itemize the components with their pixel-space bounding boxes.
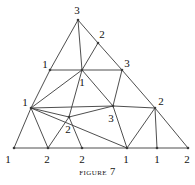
graph-edge [31,70,50,108]
graph-edge [78,20,82,70]
graph-edge [113,70,122,106]
vertex-label: 1 [42,59,48,70]
graph-vertex [112,105,115,108]
figure-caption: Figure7 [0,166,195,177]
graph-edge [82,70,113,106]
vertex-label: 2 [184,154,190,165]
vertex-label: 2 [79,154,85,165]
graph-vertex [47,147,50,150]
graph-vertex [121,69,124,72]
graph-vertex [30,107,33,110]
graph-edge [122,70,155,108]
graph-vertex [154,107,157,110]
vertex-label: 1 [123,154,129,165]
graph-edge [82,43,98,70]
vertex-label: 1 [22,97,28,108]
graph-edge [155,108,188,148]
graph-edge [127,108,155,148]
figure-caption-word: Figure [79,166,107,177]
graph-edge [50,20,78,70]
graph-vertex [97,42,100,45]
graph-edge [31,70,82,108]
vertex-label: 2 [99,29,105,40]
graph-vertex [126,147,129,150]
vertex-label: 3 [108,113,114,124]
graph-vertex [77,19,80,22]
vertex-label: 3 [74,5,80,16]
graph-edge [113,106,127,148]
figure-7-container: 321131322122112 Figure7 [0,0,195,185]
graph-edge [98,43,122,70]
vertex-label: 1 [79,77,85,88]
vertex-label: 2 [44,154,50,165]
graph-vertex [81,147,84,150]
graph-vertex [81,69,84,72]
graph-vertex [156,147,159,150]
graph-edge [69,106,113,117]
vertex-label: 1 [154,154,160,165]
vertex-label: 3 [124,58,130,69]
vertex-label: 2 [65,124,71,135]
graph-edge [78,20,98,43]
graph-edge [14,108,31,148]
triangulation-diagram [0,0,195,185]
graph-vertex [49,69,52,72]
vertex-label: 1 [5,154,11,165]
graph-vertex [68,116,71,119]
graph-vertex [187,147,190,150]
figure-caption-number: 7 [110,166,116,177]
vertex-label: 2 [158,96,164,107]
graph-edge [69,117,82,148]
graph-edge [113,106,155,108]
graph-vertex [13,147,16,150]
graph-edge [155,108,157,148]
